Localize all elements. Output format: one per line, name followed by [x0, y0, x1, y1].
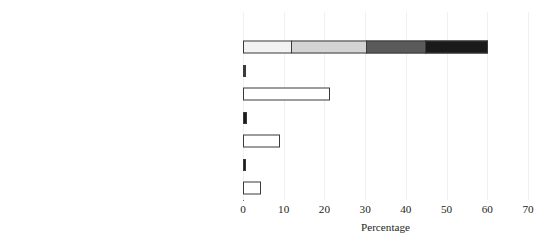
chart-row: Small (<1000 km2) - International: [243, 12, 528, 36]
plot-area: Small (<1000 km2) - InternationalNationa…: [243, 12, 528, 200]
x-tick-label: 20: [319, 203, 330, 215]
bar-segment: [243, 88, 330, 101]
bar-segment: [243, 135, 280, 148]
x-tick-label: 50: [441, 203, 452, 215]
chart-row: Large (>10,000 - 100,000 km2) - Internat…: [243, 106, 528, 130]
chart-row: National: [243, 130, 528, 154]
x-axis-spine: [243, 201, 528, 202]
x-tick-label: 0: [240, 203, 246, 215]
bar-segment: [243, 112, 247, 124]
bar: [243, 182, 261, 195]
x-tick-label: 40: [400, 203, 411, 215]
x-tick-label: 10: [278, 203, 289, 215]
bar-segment: [366, 41, 426, 54]
bar-segment: [425, 41, 488, 54]
bar: [243, 65, 246, 77]
bar-segment: [243, 159, 246, 171]
bar: [243, 41, 488, 54]
bar: [243, 112, 247, 124]
chart-row: National: [243, 177, 528, 201]
bar: [243, 135, 280, 148]
chart-row: National: [243, 36, 528, 60]
chart-row: Very large (>100,000 km2) - Internationa…: [243, 153, 528, 177]
x-tick-label: 60: [482, 203, 493, 215]
x-tick-label: 30: [360, 203, 371, 215]
bar-chart: Small (<1000 km2) - InternationalNationa…: [0, 0, 544, 246]
bar: [243, 159, 246, 171]
x-axis-title: Percentage: [243, 221, 528, 233]
bar-segment: [243, 182, 261, 195]
x-tick-label: 70: [522, 203, 533, 215]
chart-row: Medium (>1000 - 10,000 km2) - Internatio…: [243, 59, 528, 83]
chart-row: National: [243, 83, 528, 107]
bar-segment: [243, 65, 246, 77]
bar: [243, 88, 330, 101]
bar-segment: [291, 41, 367, 54]
gridline: [528, 12, 529, 200]
bar-segment: [243, 41, 292, 54]
